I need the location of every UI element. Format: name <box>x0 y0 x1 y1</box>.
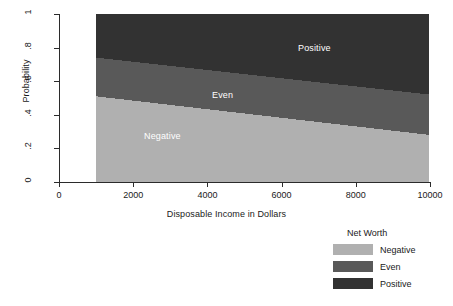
legend-items: NegativeEvenPositive <box>333 242 453 291</box>
legend-item-positive[interactable]: Positive <box>333 276 453 291</box>
x-tick-mark <box>282 182 283 187</box>
x-tick-label: 4000 <box>177 190 237 200</box>
y-tick-label: 1 <box>23 0 33 32</box>
x-tick-label: 2000 <box>103 190 163 200</box>
x-tick-label: 0 <box>29 190 89 200</box>
x-tick-mark <box>356 182 357 187</box>
legend-swatch-positive <box>333 278 373 289</box>
chart-legend: Net Worth NegativeEvenPositive <box>333 228 453 293</box>
y-tick-mark <box>54 115 59 116</box>
plot-area <box>96 14 429 182</box>
x-axis-label: Disposable Income in Dollars <box>0 209 453 219</box>
legend-swatch-negative <box>333 244 373 255</box>
y-tick-mark <box>54 148 59 149</box>
legend-title: Net Worth <box>347 228 453 238</box>
x-axis-line <box>59 182 430 183</box>
band-label-negative: Negative <box>144 131 181 141</box>
legend-label: Positive <box>380 279 412 289</box>
x-tick-mark <box>133 182 134 187</box>
x-tick-label: 8000 <box>326 190 386 200</box>
band-label-positive: Positive <box>298 43 331 53</box>
legend-swatch-even <box>333 261 373 272</box>
y-tick-mark <box>54 81 59 82</box>
chart-figure: Probability 0.2.4.6.81 02000400060008000… <box>0 0 453 306</box>
legend-label: Negative <box>380 245 416 255</box>
stacked-area-svg <box>96 14 429 182</box>
x-tick-label: 6000 <box>252 190 312 200</box>
x-tick-label: 10000 <box>400 190 453 200</box>
x-tick-mark <box>59 182 60 187</box>
legend-item-even[interactable]: Even <box>333 259 453 274</box>
legend-label: Even <box>380 262 401 272</box>
legend-item-negative[interactable]: Negative <box>333 242 453 257</box>
y-tick-mark <box>54 14 59 15</box>
y-tick-mark <box>54 48 59 49</box>
y-axis-line <box>59 14 60 182</box>
x-tick-mark <box>207 182 208 187</box>
x-tick-mark <box>430 182 431 187</box>
band-label-even: Even <box>212 90 233 100</box>
